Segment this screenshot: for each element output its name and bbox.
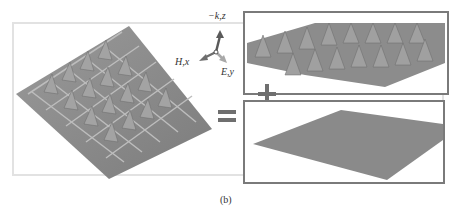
figure-caption: (b) <box>220 194 232 205</box>
coordinate-axes <box>190 18 250 66</box>
equals-sign <box>218 108 238 124</box>
ground-plane-panel <box>243 100 445 184</box>
x-axis-label: H,x <box>175 56 189 67</box>
pyramid-array-panel <box>243 11 449 95</box>
y-axis-label: E,y <box>221 66 234 77</box>
z-axis-label: −k,z <box>208 10 226 21</box>
full-structure-illustration <box>14 24 214 179</box>
